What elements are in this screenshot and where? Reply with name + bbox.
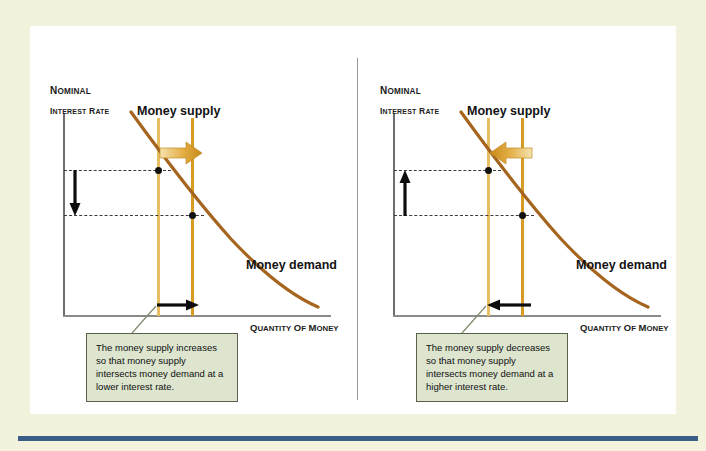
chart-panel-left: NOMINAL INTEREST RATE QUANTITY OF MONEY [0, 0, 353, 451]
callout-left: The money supply increases so that money… [86, 333, 238, 402]
callout-leader-right [448, 306, 488, 334]
callout-right: The money supply decreases so that money… [416, 333, 568, 402]
money-demand-label-text-right: Money demand [576, 258, 667, 272]
interest-rate-down-arrow-left [68, 168, 82, 220]
money-demand-label-left: Money demand [246, 258, 337, 272]
money-supply-label-left: Money supply [137, 104, 220, 118]
money-supply-label-right: Money supply [467, 104, 550, 118]
supply-shift-arrow-left-right [490, 142, 534, 166]
supply-shift-arrow-right-left [160, 142, 204, 166]
chart-panel-right: NOMINAL INTEREST RATE QUANTITY OF MONEY [330, 0, 683, 451]
quantity-right-arrow-left [155, 298, 203, 312]
quantity-left-arrow-right [485, 298, 533, 312]
equilibrium-dot-new-left [189, 212, 196, 219]
rate-line-original-right [394, 215, 534, 216]
equilibrium-dot-original-left [155, 167, 162, 174]
equilibrium-dot-original-right [519, 212, 526, 219]
money-supply-label-text-right: Money supply [467, 104, 550, 118]
callout-text-left: The money supply increases so that money… [96, 342, 223, 392]
money-demand-label-right: Money demand [576, 258, 667, 272]
figure-page: NOMINAL INTEREST RATE QUANTITY OF MONEY [0, 0, 706, 451]
interest-rate-up-arrow-right [398, 168, 412, 220]
money-demand-label-text-left: Money demand [246, 258, 337, 272]
callout-leader-left [118, 306, 158, 334]
rate-line-new-left [64, 215, 204, 216]
callout-text-right: The money supply decreases so that money… [426, 342, 553, 392]
money-supply-label-text-left: Money supply [137, 104, 220, 118]
equilibrium-dot-new-right [485, 167, 492, 174]
